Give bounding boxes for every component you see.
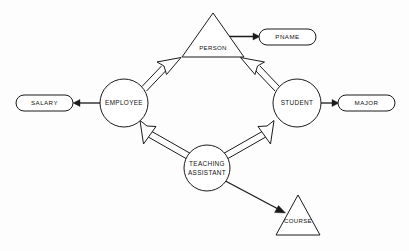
er-diagram-canvas: PERSON COURSE EMPLOYEE STUDENT TEACHING … [0, 0, 409, 251]
connector-student-isa-person[interactable] [241, 58, 280, 92]
node-attribute-major-label: MAJOR [355, 99, 379, 106]
er-diagram-svg: PERSON COURSE EMPLOYEE STUDENT TEACHING … [0, 0, 409, 251]
node-student[interactable]: STUDENT [273, 79, 321, 127]
connector-ta-isa-student[interactable] [224, 121, 275, 159]
node-teaching-assistant-label-line2: ASSISTANT [188, 169, 226, 176]
node-attribute-major[interactable]: MAJOR [338, 95, 395, 111]
node-teaching-assistant[interactable]: TEACHING ASSISTANT [184, 145, 230, 191]
connector-ta-to-course[interactable] [225, 181, 286, 214]
node-employee-label: EMPLOYEE [105, 99, 143, 106]
node-attribute-pname-label: PNAME [275, 33, 299, 40]
connector-employee-to-salary[interactable] [73, 100, 100, 107]
node-attribute-salary[interactable]: SALARY [16, 95, 73, 111]
connector-student-to-major[interactable] [321, 100, 339, 107]
node-attribute-pname[interactable]: PNAME [259, 29, 316, 45]
node-course[interactable]: COURSE [276, 195, 320, 235]
node-person-label: PERSON [199, 44, 227, 51]
connector-ta-isa-employee[interactable] [140, 121, 191, 159]
node-employee[interactable]: EMPLOYEE [100, 79, 148, 127]
node-teaching-assistant-label-line1: TEACHING [189, 160, 225, 167]
node-course-label: COURSE [284, 217, 312, 224]
node-student-label: STUDENT [281, 99, 314, 106]
connector-employee-isa-person[interactable] [142, 58, 181, 92]
node-attribute-salary-label: SALARY [31, 99, 58, 106]
node-person[interactable]: PERSON [182, 13, 244, 57]
